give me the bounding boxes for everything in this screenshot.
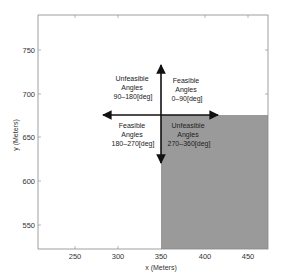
y-tick-label: 600 [22, 177, 35, 186]
x-tick-label: 400 [199, 252, 212, 261]
annotation-q3: Feasible Angles 180–270[deg] [112, 122, 155, 148]
annotation-q2: Unfeasible Angles 90–180[deg] [114, 75, 153, 101]
x-tick-label: 250 [69, 252, 82, 261]
y-axis-label: y (Meters) [12, 119, 20, 151]
y-tick-label: 700 [22, 90, 35, 99]
y-tick-label: 650 [22, 133, 35, 142]
x-axis-label: x (Meters) [145, 264, 177, 272]
annotation-q1: Feasible Angles 0–90[deg] [171, 77, 202, 103]
x-tick-label: 350 [155, 252, 168, 261]
x-tick-label: 450 [242, 252, 255, 261]
y-tick-label: 550 [22, 221, 35, 230]
y-tick-label: 750 [22, 46, 35, 55]
feasibility-chart: 750 700 650 600 550 y (Meters) 250 300 3… [0, 0, 281, 277]
x-tick-label: 300 [112, 252, 125, 261]
